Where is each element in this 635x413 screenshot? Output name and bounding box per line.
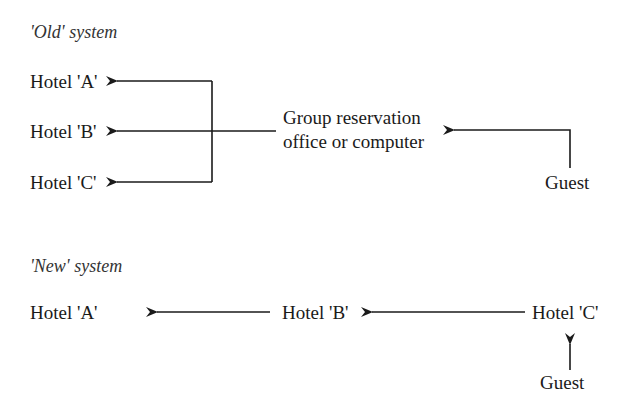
arrow-guest-to-office [454, 130, 570, 168]
connector-arrows [0, 0, 635, 413]
